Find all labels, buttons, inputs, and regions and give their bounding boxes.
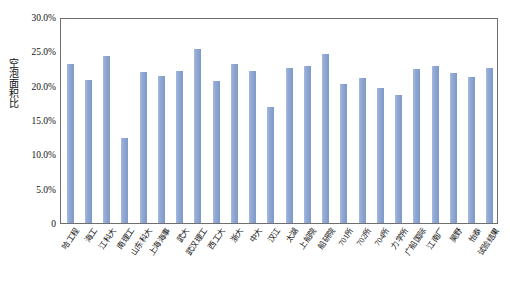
bar <box>286 68 293 223</box>
y-axis-tick-label: 20.0% <box>31 82 56 92</box>
bar <box>85 80 92 223</box>
x-axis-tick-label: 702所 <box>355 226 374 248</box>
x-axis-tick-label-text: 浙大 <box>229 226 245 244</box>
plot-area <box>60 18 498 224</box>
x-axis-tick-label: 太湖 <box>284 226 300 244</box>
bar <box>304 66 311 223</box>
bar <box>322 54 329 223</box>
bar <box>249 71 256 223</box>
x-axis-tick-label-text: 太湖 <box>284 226 300 244</box>
bar <box>486 68 493 223</box>
bar <box>377 88 384 223</box>
x-axis-tick-label-text: 汉江 <box>266 226 282 244</box>
bar <box>140 72 147 223</box>
x-axis-tick-label: 西工大 <box>207 226 228 251</box>
bar <box>432 66 439 223</box>
x-axis-tick-labels: 哈工程海工江科大南理工山东科大上海海事武大武汉理工西工大浙大中大汉江太湖上船院船… <box>60 226 498 299</box>
y-axis-tick-label: 0 <box>51 219 56 229</box>
x-axis-tick-label: 汉江 <box>266 226 282 244</box>
bar <box>194 49 201 223</box>
bar <box>103 56 110 223</box>
y-axis-tick-label: 10.0% <box>31 150 56 160</box>
x-axis-tick-label-text: 中大 <box>248 226 264 244</box>
bar <box>450 73 457 223</box>
x-axis-tick-label: 701所 <box>337 226 356 248</box>
bar-chart: 空泡面积比 30.0%25.0%20.0%15.0%10.0%5.0%0 哈工程… <box>0 0 510 299</box>
x-axis-tick-label: 哈工程 <box>61 226 82 251</box>
y-axis-tick-label: 25.0% <box>31 47 56 57</box>
bar <box>121 138 128 223</box>
x-axis-tick-label: 浙大 <box>229 226 245 244</box>
y-axis-tick-label: 30.0% <box>31 13 56 23</box>
bar <box>213 81 220 223</box>
y-axis-tick-labels: 30.0%25.0%20.0%15.0%10.0%5.0%0 <box>18 0 58 299</box>
x-axis-tick-label-text: 怡泰 <box>467 226 483 244</box>
x-axis-tick-label: 江南厂 <box>426 226 447 251</box>
x-axis-tick-label-text: 昊野 <box>448 226 464 244</box>
x-axis-tick-label-text: 701所 <box>337 226 356 248</box>
x-axis-tick-label-text: 702所 <box>355 226 374 248</box>
y-axis-title: 空泡面积比 <box>2 58 18 108</box>
bars-layer <box>61 19 497 223</box>
x-axis-tick-label: 怡泰 <box>467 226 483 244</box>
bar <box>176 71 183 223</box>
x-axis-tick-label: 江科大 <box>97 226 118 251</box>
bar <box>158 76 165 223</box>
bar <box>267 107 274 223</box>
bar <box>395 95 402 223</box>
x-axis-tick-label-text: 船研院 <box>316 226 337 251</box>
bar <box>231 64 238 223</box>
x-axis-tick-label-text: 武大 <box>175 226 191 244</box>
x-axis-tick-label-text: 上船院 <box>298 226 319 251</box>
x-axis-tick-label-text: 哈工程 <box>61 226 82 251</box>
x-axis-tick-label-text: 江南厂 <box>426 226 447 251</box>
x-axis-tick-label: 中大 <box>248 226 264 244</box>
y-axis-tick-label: 15.0% <box>31 116 56 126</box>
x-axis-tick-label: 上船院 <box>298 226 319 251</box>
x-axis-tick-label-text: 海工 <box>83 226 99 244</box>
x-axis-tick-label-text: 西工大 <box>207 226 228 251</box>
x-axis-tick-label: 海工 <box>83 226 99 244</box>
x-axis-tick-label: 武大 <box>175 226 191 244</box>
bar <box>359 78 366 223</box>
bar <box>468 77 475 223</box>
x-axis-tick-label: 船研院 <box>316 226 337 251</box>
bar <box>67 64 74 223</box>
x-axis-tick-label: 昊野 <box>448 226 464 244</box>
bar <box>340 84 347 223</box>
x-axis-tick-label-text: 江科大 <box>97 226 118 251</box>
y-axis-tick-label: 5.0% <box>36 185 56 195</box>
bar <box>413 69 420 223</box>
